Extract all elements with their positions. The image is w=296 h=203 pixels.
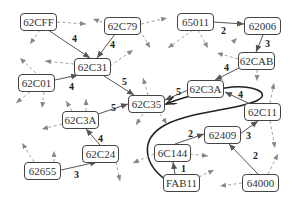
edge-65011-62006 xyxy=(213,22,244,24)
edge-weight-62006-62CAB: 3 xyxy=(265,39,270,49)
edge-62C01-62C31 xyxy=(55,75,78,80)
node-62006: 62006 xyxy=(244,17,281,35)
edge-62C31-62C35 xyxy=(104,76,134,95)
edge-weight-62C11-62C3Ar: 4 xyxy=(238,90,243,100)
edge-weight-6C144-62409: 2 xyxy=(188,129,193,139)
node-62CAB: 62CAB xyxy=(238,52,275,70)
edge-62CFF-62C31 xyxy=(48,30,90,58)
edge-weight-62C01-62C31: 4 xyxy=(69,82,74,92)
edge-weight-FAB11-6C144: 1 xyxy=(181,164,186,174)
edge-weight-62C24-62C3Al: 4 xyxy=(98,134,103,144)
edge-weight-62C3Al-62C35: 5 xyxy=(111,103,116,113)
edge-weight-62CAB-62C3Ar: 4 xyxy=(224,63,229,73)
edge-weight-62409-62C11: 3 xyxy=(246,131,251,141)
node-65011: 65011 xyxy=(177,13,214,31)
edge-weight-62C79-62C31: 4 xyxy=(110,40,115,50)
node-62C31: 62C31 xyxy=(74,58,111,76)
graph-canvas: 62CFF 62C79 65011 62006 62C31 62CAB 62C0… xyxy=(0,0,296,203)
edge-weight-62655-62C24: 3 xyxy=(74,170,79,180)
node-62C3A-left: 62C3A xyxy=(62,111,99,129)
edge-weight-62C31-62C35: 5 xyxy=(122,77,127,87)
edge-weight-62C3Ar-62C35: 5 xyxy=(176,87,181,97)
node-62C11: 62C11 xyxy=(244,103,281,121)
node-FAB11: FAB11 xyxy=(163,174,200,192)
edge-weight-65011-62006: 2 xyxy=(221,26,226,36)
edge-weight-62CFF-62C31: 4 xyxy=(72,34,77,44)
edge-62655-62C24 xyxy=(61,162,97,170)
node-62409: 62409 xyxy=(204,126,241,144)
node-62C79: 62C79 xyxy=(104,17,141,35)
node-62C24: 62C24 xyxy=(82,145,119,163)
node-64000: 64000 xyxy=(242,174,279,192)
edge-weight-64000-62409: 2 xyxy=(253,151,258,161)
edge-FAB11-6C144 xyxy=(173,162,175,174)
edge-62006-62CAB xyxy=(256,35,263,52)
node-62C3A-right: 62C3A xyxy=(187,80,224,98)
edge-62C11-62C3Ar xyxy=(225,92,248,103)
node-62C01: 62C01 xyxy=(18,74,55,92)
node-62C35: 62C35 xyxy=(128,95,165,113)
node-62CFF: 62CFF xyxy=(20,13,57,31)
node-62655: 62655 xyxy=(24,162,61,180)
node-6C144: 6C144 xyxy=(154,144,191,162)
